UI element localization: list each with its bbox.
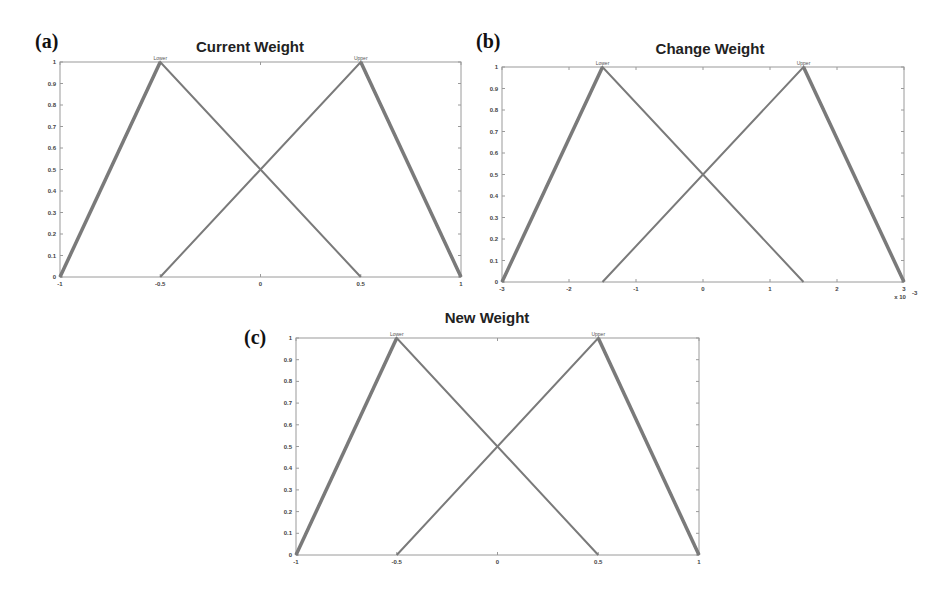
y-tick-label: 0.8 — [284, 378, 293, 384]
y-tick-label: 1 — [53, 59, 57, 65]
y-tick-label: 0.1 — [284, 530, 293, 536]
chart-b: 00.10.20.30.40.50.60.70.80.91-3-2-10123x… — [490, 60, 918, 300]
y-tick-label: 0.6 — [490, 150, 499, 156]
x-tick-label: 2 — [835, 286, 839, 292]
y-tick-label: 0.7 — [48, 124, 57, 130]
y-tick-label: 0.6 — [284, 422, 293, 428]
y-tick-label: 0.7 — [284, 400, 293, 406]
series-lower — [502, 67, 804, 282]
y-tick-label: 0.4 — [48, 188, 57, 194]
x-tick-label: 0 — [259, 281, 263, 287]
y-tick-label: 0.8 — [490, 107, 499, 113]
y-tick-label: 0.5 — [48, 167, 57, 173]
x-tick-label: 0 — [701, 286, 705, 292]
x-tick-label: -0.5 — [392, 559, 403, 565]
mf-label-lower: Lower — [153, 55, 167, 61]
x-tick-label: 1 — [697, 559, 701, 565]
x-tick-label: 1 — [459, 281, 463, 287]
mf-label-lower: Lower — [390, 331, 404, 337]
svg-text:-3: -3 — [912, 290, 918, 296]
y-tick-label: 0.6 — [48, 145, 57, 151]
series-upper — [603, 67, 905, 282]
y-tick-label: 0.3 — [490, 215, 499, 221]
series-upper — [160, 62, 461, 277]
y-tick-label: 0.2 — [48, 231, 57, 237]
y-tick-label: 0.4 — [490, 193, 499, 199]
y-tick-label: 0.1 — [48, 253, 57, 259]
mf-label-upper: Upper — [797, 60, 811, 66]
chart-c: 00.10.20.30.40.50.60.70.80.91-1-0.500.51… — [284, 331, 702, 565]
series-upper — [397, 338, 699, 555]
x-multiplier: x 10 — [894, 294, 906, 300]
y-tick-label: 0.5 — [490, 172, 499, 178]
y-tick-label: 0.3 — [284, 487, 293, 493]
mf-label-upper: Upper — [591, 331, 605, 337]
y-tick-label: 0 — [289, 552, 293, 558]
figure-canvas: 00.10.20.30.40.50.60.70.80.91-1-0.500.51… — [0, 0, 934, 594]
x-tick-label: 1 — [768, 286, 772, 292]
series-lower — [296, 338, 598, 555]
y-tick-label: 0.2 — [490, 236, 499, 242]
y-tick-label: 0.2 — [284, 509, 293, 515]
series-lower — [60, 62, 361, 277]
y-tick-label: 0.5 — [284, 444, 293, 450]
x-tick-label: 0.5 — [357, 281, 366, 287]
y-tick-label: 0.8 — [48, 102, 57, 108]
x-tick-label: -3 — [499, 286, 505, 292]
x-tick-label: 0.5 — [594, 559, 603, 565]
y-tick-label: 0.3 — [48, 210, 57, 216]
x-tick-label: -2 — [566, 286, 572, 292]
y-tick-label: 1 — [289, 335, 293, 341]
x-tick-label: -0.5 — [155, 281, 166, 287]
x-tick-label: -1 — [57, 281, 63, 287]
mf-label-lower: Lower — [596, 60, 610, 66]
mf-label-upper: Upper — [354, 55, 368, 61]
y-tick-label: 0.9 — [48, 81, 57, 87]
chart-a: 00.10.20.30.40.50.60.70.80.91-1-0.500.51… — [48, 55, 464, 287]
y-tick-label: 0 — [53, 274, 57, 280]
x-tick-label: 3 — [902, 286, 906, 292]
y-tick-label: 0.1 — [490, 258, 499, 264]
y-tick-label: 0.7 — [490, 129, 499, 135]
y-tick-label: 0 — [495, 279, 499, 285]
y-tick-label: 0.9 — [284, 357, 293, 363]
y-tick-label: 0.9 — [490, 86, 499, 92]
x-tick-label: 0 — [496, 559, 500, 565]
x-tick-label: -1 — [293, 559, 299, 565]
y-tick-label: 1 — [495, 64, 499, 70]
x-tick-label: -1 — [633, 286, 639, 292]
y-tick-label: 0.4 — [284, 465, 293, 471]
